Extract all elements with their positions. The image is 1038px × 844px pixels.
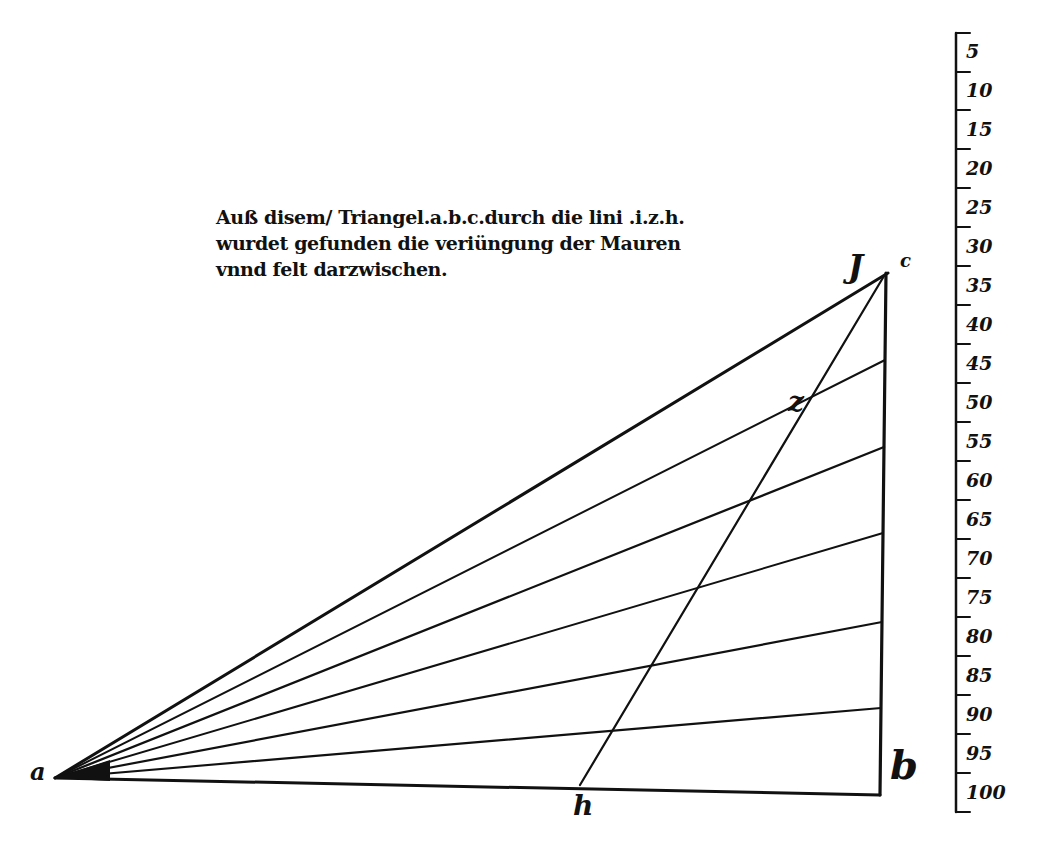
scale-label-60: 60 [966, 471, 992, 490]
scale-label-90: 90 [966, 705, 992, 724]
scale-label-15: 15 [966, 120, 992, 139]
caption-text: Auß disem/ Triangel.a.b.c.durch die lini… [216, 204, 686, 282]
scale-label-40: 40 [966, 315, 992, 334]
fan-line-5 [55, 708, 881, 778]
scale-label-95: 95 [966, 744, 992, 763]
label-point-i: J [848, 250, 863, 282]
scale-label-55: 55 [966, 432, 992, 451]
label-vertex-a: a [30, 760, 46, 784]
label-vertex-b: b [890, 745, 918, 785]
scale-label-25: 25 [966, 198, 992, 217]
triangle-diagram [0, 0, 1038, 844]
caption-line-1: Auß disem/ Triangel.a.b.c.durch die lini… [216, 204, 686, 230]
label-point-h: h [573, 792, 593, 820]
side-a-b [55, 778, 880, 795]
line-i-z-h [580, 276, 884, 785]
scale-label-100: 100 [966, 783, 1006, 802]
scale-label-30: 30 [966, 237, 992, 256]
fan-line-2 [55, 447, 884, 778]
scale-label-70: 70 [966, 549, 992, 568]
scale-label-35: 35 [966, 276, 992, 295]
scale-label-50: 50 [966, 393, 992, 412]
label-point-z: z [788, 388, 804, 416]
scale-label-20: 20 [966, 159, 992, 178]
diagram-page: Auß disem/ Triangel.a.b.c.durch die lini… [0, 0, 1038, 844]
scale-label-45: 45 [966, 354, 992, 373]
scale-label-80: 80 [966, 627, 992, 646]
side-a-c [55, 273, 888, 778]
fan-line-4 [55, 622, 882, 778]
caption-line-2: wurdet gefunden die veriüngung der Maure… [216, 230, 686, 256]
scale-label-75: 75 [966, 588, 992, 607]
scale-label-65: 65 [966, 510, 992, 529]
caption-line-3: vnnd felt darzwischen. [216, 256, 686, 282]
scale-label-85: 85 [966, 666, 992, 685]
scale-label-5: 5 [966, 42, 979, 61]
scale-label-10: 10 [966, 81, 992, 100]
label-vertex-c: c [900, 252, 911, 270]
